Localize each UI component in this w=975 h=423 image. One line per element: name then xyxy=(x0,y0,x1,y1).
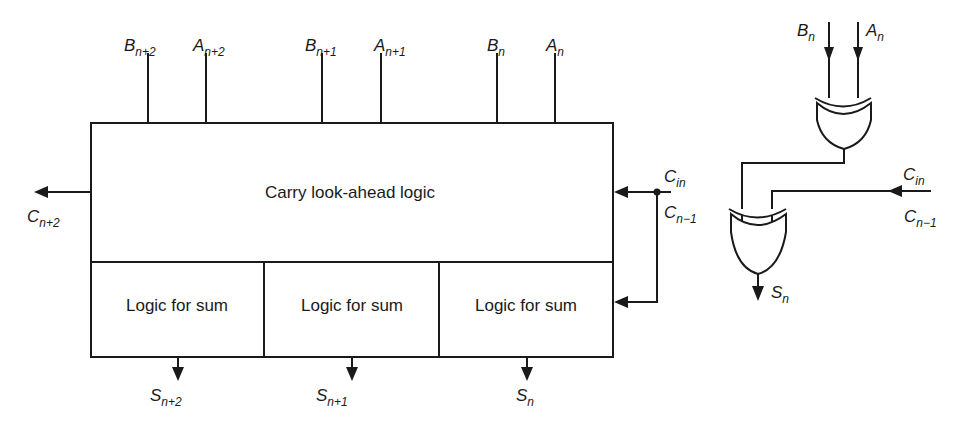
carry-out-arrow-icon xyxy=(34,186,48,198)
detail-input-label-b: Bn xyxy=(797,21,815,44)
detail-input-arrow-icon-a xyxy=(853,47,863,61)
detail-carry-arrow-icon xyxy=(888,185,902,197)
carry-prev-label: Cn−1 xyxy=(664,203,697,226)
sum-outputs: Sn+2 Sn+1 Sn xyxy=(150,357,534,409)
detail-input-arrow-icon-b xyxy=(824,47,834,61)
carry-branch-arrow-icon xyxy=(614,296,628,308)
input-label-a-n2: An+2 xyxy=(192,36,225,59)
detail-output-arrow-icon xyxy=(752,286,764,301)
detail-output-label: Sn xyxy=(771,283,789,306)
detail-carry-prev-label: Cn−1 xyxy=(904,207,937,230)
sum-out-label-1: Sn+2 xyxy=(150,386,182,409)
input-label-b-n1: Bn+1 xyxy=(305,36,337,59)
main-block-outline xyxy=(91,123,613,357)
input-label-b-n2: Bn+2 xyxy=(124,36,156,59)
carry-lookahead-diagram: Carry look-ahead logic Logic for sum Log… xyxy=(0,0,975,423)
sum-logic-label-2: Logic for sum xyxy=(301,296,403,315)
xor-gate-icon xyxy=(729,209,786,274)
sum-out-arrow-icon-2 xyxy=(346,367,358,381)
carry-lookahead-block: Carry look-ahead logic Logic for sum Log… xyxy=(91,123,613,357)
sum-out-label-2: Sn+1 xyxy=(316,386,348,409)
input-label-a-n1: An+1 xyxy=(373,36,406,59)
input-wires: Bn+2 An+2 Bn+1 An+1 Bn An xyxy=(124,36,564,123)
xor-gate-icon xyxy=(815,98,871,149)
sum-out-arrow-icon-1 xyxy=(172,367,184,381)
carry-out: Cn+2 xyxy=(27,186,91,230)
carry-lookahead-label: Carry look-ahead logic xyxy=(265,183,436,202)
carry-in-arrow-icon xyxy=(614,186,628,198)
sum-logic-label-3: Logic for sum xyxy=(475,296,577,315)
detail-carry-in-label: Cin xyxy=(903,165,925,188)
sum-out-label-3: Sn xyxy=(516,386,534,409)
sum-logic-detail: Bn An Cin Cn−1 Sn xyxy=(729,21,937,306)
sum-out-arrow-icon-3 xyxy=(521,367,533,381)
carry-in: Cin Cn−1 xyxy=(614,167,697,308)
carry-in-label: Cin xyxy=(664,167,686,190)
carry-out-label: Cn+2 xyxy=(27,207,60,230)
sum-logic-label-1: Logic for sum xyxy=(126,296,228,315)
carry-branch-wire xyxy=(626,192,657,302)
detail-input-label-a: An xyxy=(865,21,884,44)
